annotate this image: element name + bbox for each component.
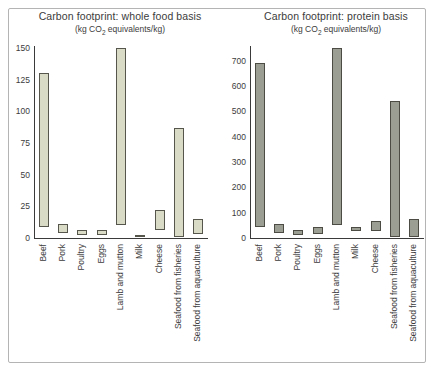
x-tick-label-eggs: Eggs [312, 244, 324, 364]
bar-seafood-from-aquaculture [409, 219, 419, 237]
y-tick-label: 75 [4, 138, 30, 148]
x-tick-label-milk: Milk [134, 244, 146, 364]
x-tick-label-seafood-from-aquaculture: Seafood from aquaculture [408, 244, 420, 364]
y-tick-label: 150 [4, 43, 30, 53]
bar-poultry [77, 230, 87, 235]
x-tick-label-eggs: Eggs [96, 244, 108, 364]
chart-whole-food-basis: Carbon footprint: whole food basis (kg C… [0, 0, 216, 363]
bar-cheese [155, 210, 165, 230]
y-tick-label: 50 [4, 170, 30, 180]
x-tick-label-poultry: Poultry [76, 244, 88, 364]
bar-seafood-from-fisheries [174, 128, 184, 237]
bar-eggs [97, 230, 107, 235]
bar-lamb-and-mutton [332, 48, 342, 225]
y-tick-label: 125 [4, 75, 30, 85]
y-tick-label: 400 [220, 132, 246, 142]
bar-milk [135, 235, 145, 237]
y-axis [34, 46, 35, 238]
y-tick-label: 300 [220, 157, 246, 167]
x-tick-label-cheese: Cheese [154, 244, 166, 364]
x-tick-label-poultry: Poultry [292, 244, 304, 364]
x-tick-label-beef: Beef [38, 244, 50, 364]
x-tick-label-seafood-from-fisheries: Seafood from fisheries [389, 244, 401, 364]
y-tick-label: 200 [220, 182, 246, 192]
y-tick-label: 0 [4, 233, 30, 243]
x-tick-label-pork: Pork [273, 244, 285, 364]
y-tick-label: 100 [220, 208, 246, 218]
plot-area-protein: 0100200300400500600700BeefPorkPoultryEgg… [216, 0, 432, 363]
y-tick-label: 0 [220, 233, 246, 243]
x-tick-label-lamb-and-mutton: Lamb and mutton [115, 244, 127, 364]
x-tick-label-seafood-from-fisheries: Seafood from fisheries [173, 244, 185, 364]
y-tick-label: 500 [220, 106, 246, 116]
y-tick-label: 700 [220, 56, 246, 66]
y-tick-label: 600 [220, 81, 246, 91]
bar-beef [39, 73, 49, 226]
x-tick-label-pork: Pork [57, 244, 69, 364]
y-tick-label: 100 [4, 106, 30, 116]
x-tick-label-cheese: Cheese [370, 244, 382, 364]
x-axis [250, 238, 424, 239]
x-tick-label-milk: Milk [350, 244, 362, 364]
bar-pork [274, 224, 284, 233]
bar-milk [351, 227, 361, 231]
bar-cheese [371, 221, 381, 231]
bar-seafood-from-fisheries [390, 101, 400, 237]
x-tick-label-lamb-and-mutton: Lamb and mutton [331, 244, 343, 364]
y-axis [250, 46, 251, 238]
bar-eggs [313, 227, 323, 234]
bar-poultry [293, 230, 303, 235]
y-tick-label: 25 [4, 201, 30, 211]
chart-protein-basis: Carbon footprint: protein basis (kg CO2 … [216, 0, 432, 363]
bar-lamb-and-mutton [116, 48, 126, 225]
x-tick-label-beef: Beef [254, 244, 266, 364]
plot-area-whole-food: 0255075100125150BeefPorkPoultryEggsLamb … [0, 0, 216, 363]
bar-beef [255, 63, 265, 226]
x-axis [34, 238, 208, 239]
bar-pork [58, 224, 68, 233]
x-tick-label-seafood-from-aquaculture: Seafood from aquaculture [192, 244, 204, 364]
bar-seafood-from-aquaculture [193, 219, 203, 234]
